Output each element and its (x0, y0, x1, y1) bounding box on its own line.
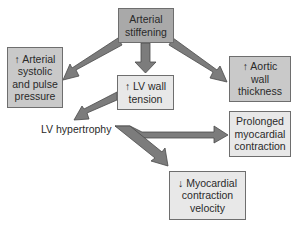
diagram-canvas: Arterial stiffening ↑ Arterial systolic … (0, 0, 298, 226)
node-lv-hypertrophy: LV hypertrophy (41, 123, 111, 135)
node-label: Prolonged myocardial contraction (234, 115, 285, 153)
node-label: LV hypertrophy (41, 123, 111, 135)
node-label: Arterial stiffening (125, 13, 167, 38)
node-prolonged-contraction: Prolonged myocardial contraction (229, 111, 291, 157)
arrow-to-aortic-wall (169, 38, 227, 82)
node-aortic-wall-thickness: ↑ Aortic wall thickness (229, 56, 291, 102)
arrow-to-lv-hypertrophy (74, 92, 117, 120)
node-arterial-stiffening: Arterial stiffening (118, 8, 174, 43)
node-label: ↑ Aortic wall thickness (238, 60, 282, 98)
node-lv-wall-tension: ↑ LV wall tension (117, 75, 174, 110)
node-label: ↑ LV wall tension (125, 80, 166, 105)
arrow-to-arterial-pressure (63, 38, 122, 80)
arrow-to-lv-wall-tension (135, 43, 156, 73)
node-label: ↓ Myocardial contraction velocity (178, 177, 237, 215)
node-arterial-pressure: ↑ Arterial systolic and pulse pressure (7, 47, 63, 108)
node-label: ↑ Arterial systolic and pulse pressure (12, 53, 58, 103)
node-contraction-velocity: ↓ Myocardial contraction velocity (169, 171, 246, 220)
